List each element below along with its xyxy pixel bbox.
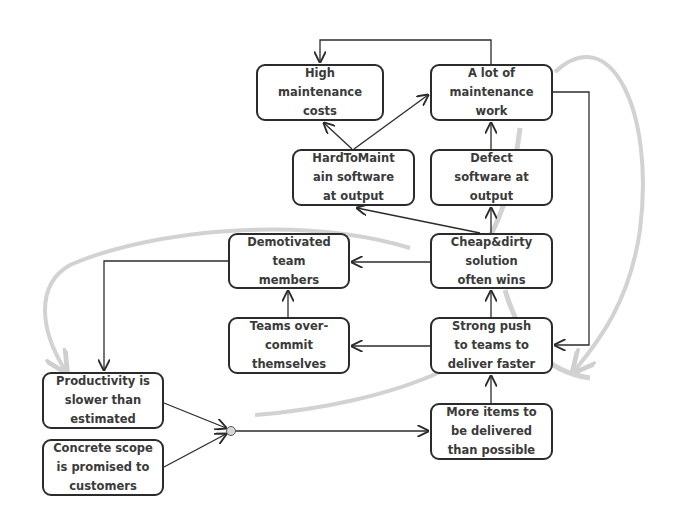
node-cheap-dirty-solution: Cheap&dirty solution often wins [430, 233, 553, 289]
node-label: Teams over- commit themselves [250, 317, 328, 374]
node-label: Defect software at output [454, 149, 528, 206]
node-label: Strong push to teams to deliver faster [448, 317, 535, 374]
edge-cheap-hard [357, 208, 480, 233]
node-strong-push: Strong push to teams to deliver faster [430, 317, 553, 374]
node-label: Productivity is slower than estimated [56, 372, 150, 429]
node-label: Concrete scope is promised to customers [53, 439, 153, 496]
node-label: A lot of maintenance work [450, 64, 534, 121]
node-label: High maintenance costs [278, 64, 362, 121]
node-productivity-slower: Productivity is slower than estimated [42, 372, 164, 429]
node-concrete-scope: Concrete scope is promised to customers [42, 439, 164, 496]
edge-scope-junction [164, 434, 226, 467]
edge-demotivated-productivity [104, 261, 228, 370]
node-label: HardToMaint ain software at output [312, 149, 394, 206]
node-teams-overcommit: Teams over- commit themselves [228, 317, 350, 374]
edge-productivity-junction [164, 403, 226, 428]
node-lot-of-maintenance-work: A lot of maintenance work [430, 64, 553, 121]
node-more-items: More items to be delivered than possible [430, 403, 553, 460]
node-demotivated-team: Demotivated team members [228, 233, 350, 289]
edge-hard-highcosts [324, 123, 352, 149]
node-label: Demotivated team members [247, 233, 330, 290]
node-high-maintenance-costs: High maintenance costs [256, 64, 384, 121]
junction-node [227, 427, 236, 436]
node-defect-software: Defect software at output [430, 149, 553, 206]
node-label: More items to be delivered than possible [446, 403, 536, 460]
edge-lotwork-push [553, 92, 589, 345]
node-label: Cheap&dirty solution often wins [451, 233, 532, 290]
node-hard-to-maintain-software: HardToMaint ain software at output [292, 149, 415, 206]
edge-lotwork-highcosts [320, 40, 491, 64]
